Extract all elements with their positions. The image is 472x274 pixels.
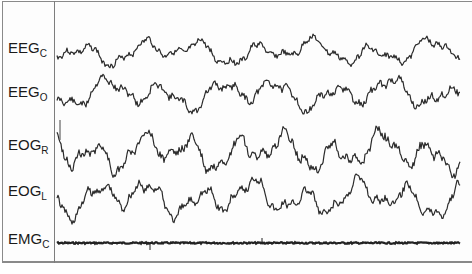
trace-eog-r: [57, 126, 460, 178]
channel-label-emg-c: EMGC: [8, 231, 49, 250]
trace-plot-area: [55, 0, 465, 274]
trace-eeg-c: [57, 34, 460, 68]
trace-eog-l: [57, 174, 460, 224]
channel-label-eeg-o: EEGO: [8, 84, 47, 103]
trace-eeg-o: [57, 74, 460, 114]
channel-label-eog-r: EOGR: [8, 137, 49, 156]
channel-label-eog-l: EOGL: [8, 183, 47, 202]
channel-label-eeg-c: EEGC: [8, 40, 47, 59]
trace-emg-c: [57, 242, 460, 244]
